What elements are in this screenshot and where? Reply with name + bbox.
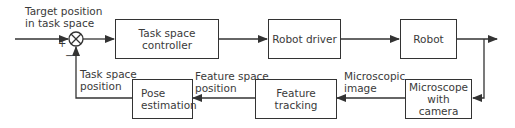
minus-sign: −	[65, 50, 73, 61]
signal-label-line: Feature space	[195, 70, 269, 82]
input-label: Target position in task space	[25, 5, 102, 29]
robot-block: Robot	[400, 19, 457, 59]
arrow-branch-to-microscope	[473, 39, 484, 98]
input-label-line-1: Target position	[25, 5, 102, 17]
signal-label-feature-space-position: Feature space position	[195, 70, 269, 94]
microscope-block: Microscope with camera	[405, 79, 472, 119]
signal-label-line: Task space	[80, 68, 137, 80]
block-label-line: controller	[139, 39, 196, 51]
block-label-line: Microscope	[406, 81, 471, 93]
block-label-line: estimation	[141, 99, 197, 111]
signal-label-line: Microscopic	[344, 70, 405, 82]
task-space-controller-block: Task space controller	[115, 19, 219, 59]
pose-estimation-block: Pose estimation	[132, 79, 193, 119]
signal-label-task-space-position: Task space position	[80, 68, 137, 92]
block-label-line: Pose	[141, 87, 197, 99]
plus-sign: +	[58, 38, 66, 49]
block-label: Robot	[413, 33, 443, 45]
block-label-line: Task space	[139, 27, 196, 39]
robot-driver-block: Robot driver	[268, 19, 341, 59]
block-label: Robot driver	[272, 33, 337, 45]
signal-label-line: position	[80, 80, 137, 92]
signal-label-line: position	[195, 82, 269, 94]
signal-label-line: image	[344, 82, 405, 94]
signal-label-microscopic-image: Microscopic image	[344, 70, 405, 94]
summing-junction-icon	[69, 32, 83, 46]
input-label-line-2: in task space	[25, 17, 102, 29]
block-label-line: with camera	[406, 93, 471, 117]
